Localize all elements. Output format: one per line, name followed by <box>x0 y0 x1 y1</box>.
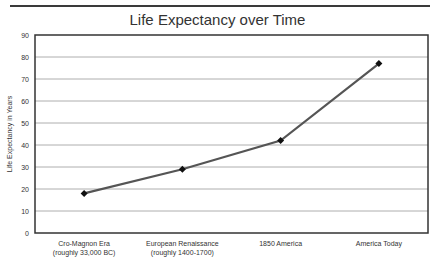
x-tick-label: European Renaissance <box>146 240 219 248</box>
y-axis-label: Life Expectancy in Years <box>6 95 14 172</box>
y-tick-label: 10 <box>21 208 29 215</box>
data-point-marker <box>81 190 88 197</box>
y-tick-label: 60 <box>21 98 29 105</box>
plot-area-frame <box>35 35 428 233</box>
x-tick-label: (roughly 1400-1700) <box>151 249 214 257</box>
x-tick-label: (roughly 33,000 BC) <box>53 249 116 257</box>
y-tick-label: 70 <box>21 76 29 83</box>
y-tick-label: 80 <box>21 54 29 61</box>
y-tick-label: 90 <box>21 32 29 39</box>
y-tick-label: 40 <box>21 142 29 149</box>
x-tick-label: Cro-Magnon Era <box>58 240 110 248</box>
y-tick-label: 30 <box>21 164 29 171</box>
x-tick-label: America Today <box>356 240 403 248</box>
x-tick-label: 1850 America <box>259 240 302 247</box>
y-tick-label: 0 <box>25 230 29 237</box>
series-line <box>84 64 379 194</box>
line-chart: 0102030405060708090 Life Expectancy in Y… <box>0 0 435 267</box>
y-tick-label: 50 <box>21 120 29 127</box>
y-tick-label: 20 <box>21 186 29 193</box>
